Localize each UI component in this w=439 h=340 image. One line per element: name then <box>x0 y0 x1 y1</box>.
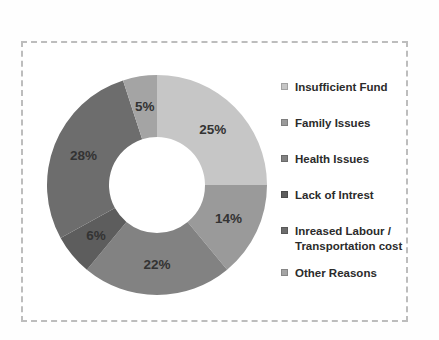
legend-swatch-icon <box>281 83 288 90</box>
legend-label: Other Reasons <box>295 266 407 281</box>
legend-item-inreased-labour-transportation-cost: Inreased Labour / Transportation cost <box>281 224 413 254</box>
slice-data-label: 5% <box>135 99 155 114</box>
legend-item-family-issues: Family Issues <box>281 116 413 131</box>
legend-label: Health Issues <box>295 152 407 167</box>
legend-label: Inreased Labour / Transportation cost <box>295 224 407 254</box>
figure-page: 25%14%22%6%28%5% Insufficient FundFamily… <box>0 0 439 340</box>
slice-data-label: 22% <box>143 257 170 272</box>
legend-item-insufficient-fund: Insufficient Fund <box>281 80 413 95</box>
legend-item-health-issues: Health Issues <box>281 152 413 167</box>
legend-item-lack-of-intrest: Lack of Intrest <box>281 188 413 203</box>
slice-data-label: 14% <box>215 211 242 226</box>
legend-swatch-icon <box>281 227 288 234</box>
slice-data-label: 28% <box>70 148 97 163</box>
legend-swatch-icon <box>281 155 288 162</box>
chart-legend: Insufficient FundFamily IssuesHealth Iss… <box>281 80 413 281</box>
legend-label: Family Issues <box>295 116 407 131</box>
legend-swatch-icon <box>281 191 288 198</box>
legend-label: Insufficient Fund <box>295 80 407 95</box>
legend-item-other-reasons: Other Reasons <box>281 266 413 281</box>
slice-data-label: 25% <box>199 122 226 137</box>
slice-data-label: 6% <box>86 228 106 243</box>
legend-swatch-icon <box>281 119 288 126</box>
legend-label: Lack of Intrest <box>295 188 407 203</box>
legend-swatch-icon <box>281 269 288 276</box>
